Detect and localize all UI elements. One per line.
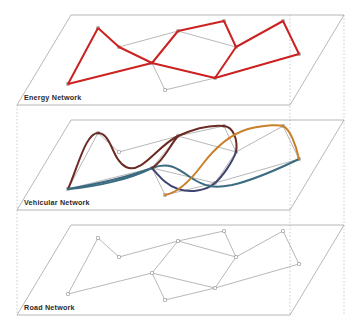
layer-group-energy: Energy Network	[17, 15, 344, 105]
plane-outline-road	[17, 225, 344, 315]
graph-edge	[68, 238, 98, 294]
graph-edge	[152, 273, 165, 300]
graph-edge	[152, 241, 178, 273]
plane-outline-energy	[17, 15, 344, 105]
diagram-stage: Road Network Vehicular Network Energy Ne…	[0, 0, 361, 323]
graph-edge	[119, 241, 178, 257]
graph-edge	[215, 152, 236, 183]
layer-label-road: Road Network	[24, 303, 75, 312]
graph-edge	[165, 288, 215, 300]
energy-overlay-path	[152, 21, 236, 78]
graph-edge	[152, 63, 165, 90]
energy-overlay-path	[68, 28, 152, 84]
graph-edge	[178, 231, 224, 241]
graph-edge	[215, 159, 299, 183]
plane-outline-vehicular	[17, 120, 344, 210]
graph-node-n1	[118, 256, 121, 259]
vertical-guides	[17, 15, 344, 315]
layer-group-road: Road Network	[17, 225, 344, 315]
graph-node-n5	[223, 230, 226, 233]
graph-node-n10	[298, 263, 301, 266]
graph-edge	[178, 31, 236, 47]
graph-node-n0	[97, 237, 100, 240]
graph-node-n3	[151, 272, 154, 275]
graph-node-n2	[67, 293, 70, 296]
graph-edge	[152, 273, 215, 288]
graph-edge	[165, 78, 215, 90]
graph-edge	[224, 231, 236, 257]
layer-label-energy: Energy Network	[24, 93, 82, 102]
graph-node-n7	[164, 89, 167, 92]
graph-node-n4	[177, 240, 180, 243]
graph-node-n9	[282, 230, 285, 233]
graph-edge	[283, 231, 299, 264]
graph-edge	[152, 168, 215, 183]
graph-node-n8	[214, 287, 217, 290]
graph-edge	[178, 241, 236, 257]
graph-edge	[152, 168, 165, 195]
graph-edge	[236, 231, 283, 257]
graph-edge	[283, 126, 299, 159]
vehicular-overlay-flow-a	[68, 126, 237, 189]
graph-edge	[119, 31, 178, 47]
graph-edge	[224, 126, 236, 152]
graph-edge	[98, 238, 119, 257]
vehicular-overlay-flow-b	[152, 152, 236, 191]
graph-edge	[215, 264, 299, 288]
layer-group-vehicular: Vehicular Network	[17, 120, 344, 210]
layer-label-vehicular: Vehicular Network	[24, 198, 90, 207]
graph-node-n1	[118, 151, 121, 154]
graph-node-n7	[164, 299, 167, 302]
graph-edge	[215, 257, 236, 288]
graph-edge	[68, 273, 152, 294]
multilayer-network-figure: Road Network Vehicular Network Energy Ne…	[0, 0, 361, 323]
graph-node-n6	[235, 256, 238, 259]
